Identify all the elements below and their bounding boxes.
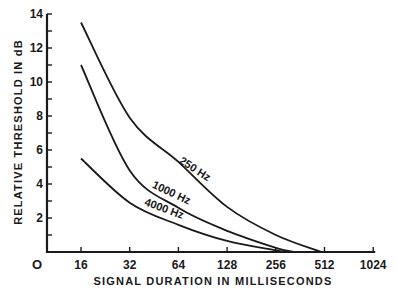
x-ticks: 1632641282565121024 (74, 247, 387, 272)
x-tick-label: 16 (74, 258, 88, 272)
y-tick-label: 10 (30, 75, 44, 89)
y-tick-label: 6 (36, 143, 43, 157)
y-tick-label: 8 (36, 109, 43, 123)
y-ticks: 2468101214 (30, 7, 52, 235)
curve-4000hz (81, 159, 285, 253)
x-tick-label: 32 (123, 258, 137, 272)
x-tick-label: 64 (172, 258, 186, 272)
threshold-chart: 2468101214 1632641282565121024 O SIGNAL … (0, 0, 398, 294)
x-axis-title: SIGNAL DURATION IN MILLISECONDS (93, 275, 332, 287)
y-tick-label: 2 (36, 211, 43, 225)
y-tick-label: 12 (30, 41, 44, 55)
curve-250hz (81, 23, 321, 253)
axes (46, 14, 375, 253)
y-tick-label: 4 (36, 177, 43, 191)
x-tick-label: 1024 (360, 258, 387, 272)
curves: 250 Hz1000 Hz4000 Hz (81, 23, 321, 253)
x-tick-label: 256 (266, 258, 286, 272)
x-tick-label: 512 (314, 258, 334, 272)
x-tick-label: 128 (217, 258, 237, 272)
y-axis-title: RELATIVE THRESHOLD IN dB (12, 39, 24, 225)
y-tick-label: 14 (30, 7, 44, 21)
origin-label: O (32, 257, 42, 272)
